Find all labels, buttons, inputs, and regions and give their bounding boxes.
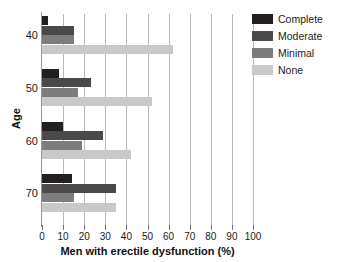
x-axis-tick bbox=[42, 225, 43, 230]
y-axis-title: Age bbox=[10, 89, 23, 149]
bar bbox=[42, 193, 74, 202]
x-axis-tick bbox=[105, 225, 106, 230]
bar bbox=[42, 69, 59, 78]
legend-label: Minimal bbox=[278, 47, 314, 59]
bar bbox=[42, 35, 74, 44]
y-axis-tick-label: 70 bbox=[12, 187, 38, 199]
bar bbox=[42, 45, 173, 54]
bar bbox=[42, 150, 131, 159]
x-axis-tick bbox=[190, 225, 191, 230]
legend-label: Moderate bbox=[278, 30, 322, 42]
gridline bbox=[232, 14, 233, 225]
x-axis-tick bbox=[63, 225, 64, 230]
bar bbox=[42, 88, 78, 97]
bar bbox=[42, 78, 91, 87]
legend-swatch bbox=[252, 48, 273, 58]
legend: CompleteModerateMinimalNone bbox=[252, 10, 340, 78]
legend-item: None bbox=[252, 61, 340, 78]
gridline bbox=[190, 14, 191, 225]
x-axis-tick bbox=[148, 225, 149, 230]
chart-figure: 0102030405060708090100 40506070 Age Men … bbox=[0, 0, 340, 262]
bar bbox=[42, 174, 72, 183]
legend-item: Minimal bbox=[252, 44, 340, 61]
legend-swatch bbox=[252, 31, 273, 41]
x-axis-tick-label: 100 bbox=[240, 231, 266, 243]
bar bbox=[42, 184, 116, 193]
x-axis-tick bbox=[84, 225, 85, 230]
x-axis-tick bbox=[169, 225, 170, 230]
bar bbox=[42, 26, 74, 35]
bar bbox=[42, 203, 116, 212]
bar bbox=[42, 141, 82, 150]
x-axis-tick bbox=[126, 225, 127, 230]
x-axis-tick bbox=[232, 225, 233, 230]
x-axis-tick bbox=[253, 225, 254, 230]
bar bbox=[42, 131, 103, 140]
legend-swatch bbox=[252, 65, 273, 75]
x-axis-tick bbox=[211, 225, 212, 230]
bar bbox=[42, 97, 152, 106]
legend-item: Complete bbox=[252, 10, 340, 27]
x-axis-title: Men with erectile dysfunction (%) bbox=[0, 245, 295, 258]
legend-swatch bbox=[252, 14, 273, 24]
bar bbox=[42, 16, 48, 25]
legend-label: Complete bbox=[278, 13, 323, 25]
gridline bbox=[211, 14, 212, 225]
bar bbox=[42, 122, 63, 131]
legend-label: None bbox=[278, 64, 303, 76]
y-axis-tick-label: 40 bbox=[12, 29, 38, 41]
legend-item: Moderate bbox=[252, 27, 340, 44]
